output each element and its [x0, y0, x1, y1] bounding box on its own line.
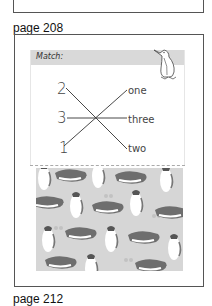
cut-line: [30, 165, 185, 166]
page-label-212: page 212: [13, 292, 63, 306]
penguin-pattern-art: [36, 168, 183, 271]
penguin-pattern: [36, 168, 183, 271]
